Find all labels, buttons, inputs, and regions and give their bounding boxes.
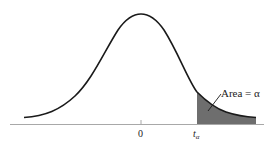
t-alpha-label: tα <box>193 128 200 141</box>
density-curve <box>24 14 256 118</box>
area-label: Area = α <box>221 87 260 99</box>
alpha-subscript: α <box>196 133 200 141</box>
t-distribution-diagram: Area = α 0 tα <box>0 0 280 143</box>
zero-label: 0 <box>138 128 143 139</box>
